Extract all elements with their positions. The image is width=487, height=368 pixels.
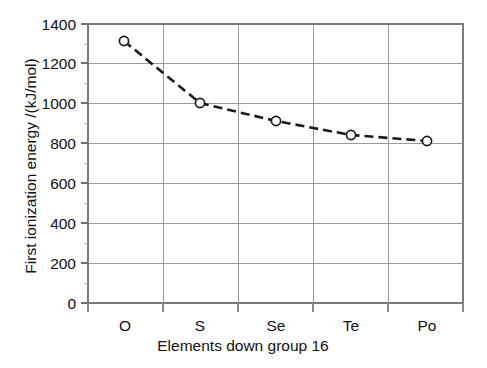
y-tick-label-1200: 1200 [42,55,77,72]
y-tick-label-200: 200 [50,255,76,272]
ionization-energy-line-chart: 1400 1200 1000 800 600 400 200 0 O S Se … [0,0,487,368]
chart-canvas: 1400 1200 1000 800 600 400 200 0 O S Se … [0,0,487,368]
y-tick-label-400: 400 [50,215,76,232]
data-point-o [119,36,128,45]
y-tick-label-1400: 1400 [42,16,77,33]
data-point-po [422,136,431,145]
x-category-label-te: Te [343,317,359,334]
data-point-se [271,116,280,125]
data-point-te [346,130,355,139]
data-point-s [195,98,204,107]
x-category-label-s: S [195,317,205,334]
y-tick-label-1000: 1000 [42,95,77,112]
x-category-label-se: Se [267,317,286,334]
x-axis-title: Elements down group 16 [157,337,328,354]
x-category-label-o: O [119,317,131,334]
y-tick-label-600: 600 [50,175,76,192]
y-tick-label-800: 800 [50,135,76,152]
x-category-label-po: Po [418,317,437,334]
y-axis-title: First ionization energy /(kJ/mol) [22,58,39,273]
y-tick-label-0: 0 [67,295,76,312]
